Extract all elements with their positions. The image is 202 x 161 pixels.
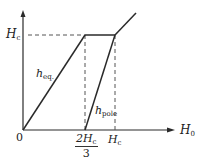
h-eq-curve — [23, 35, 85, 130]
x-tick-two-thirds-hc: 2Hc 3 — [75, 133, 98, 159]
y-axis-arrow-icon — [21, 10, 26, 17]
y-tick-hc-label: Hc — [6, 28, 20, 42]
x-axis-arrow-icon — [167, 128, 175, 133]
x-tick-hc-label: Hc — [108, 134, 122, 147]
h-pole-label: hpole — [95, 105, 117, 118]
origin-label: 0 — [16, 132, 23, 143]
diagram-canvas — [0, 0, 202, 161]
hysteresis-diagram: Hc 0 heq. hpole 2Hc 3 Hc H0 — [0, 0, 202, 161]
rising-segment — [115, 13, 136, 35]
h-eq-label: heq. — [36, 68, 54, 81]
x-axis-h0-label: H0 — [180, 124, 195, 138]
